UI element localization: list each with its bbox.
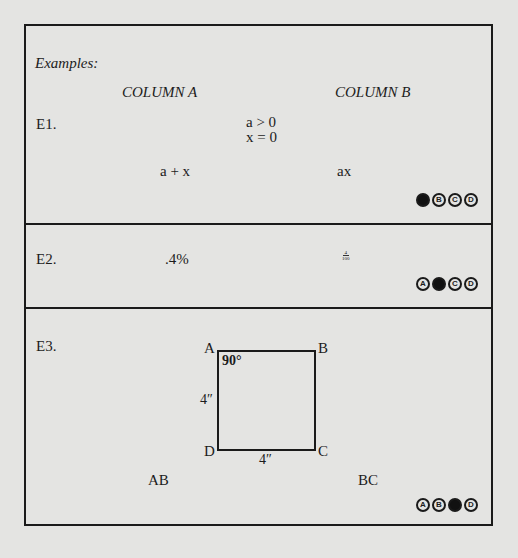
answer-bubble-c[interactable]: C [448,498,462,512]
side-left-label: 4″ [200,392,213,408]
vertex-label-c: C [318,443,328,460]
e3-column-a-value: AB [148,472,169,489]
vertex-label-d: D [204,443,215,460]
answer-bubble-a[interactable]: A [416,498,430,512]
e3-column-b-value: BC [358,472,378,489]
e3-answer-bubbles: A B C D [416,498,478,512]
angle-label: 90° [222,353,242,369]
answer-bubble-d[interactable]: D [464,498,478,512]
vertex-label-b: B [318,340,328,357]
vertex-label-a: A [204,340,215,357]
answer-bubble-b[interactable]: B [432,498,446,512]
side-bottom-label: 4″ [259,452,272,468]
e3-square-figure [0,0,518,558]
